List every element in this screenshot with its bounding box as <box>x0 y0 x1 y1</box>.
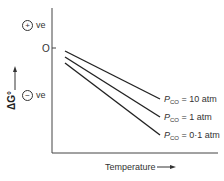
plus-circle-icon: + <box>22 20 33 31</box>
legend-value: = 1 atm <box>182 112 212 122</box>
negative-annotation: −ve <box>22 90 46 101</box>
x-axis-label: Temperature <box>105 163 156 172</box>
legend-10atm: PCO = 10 atm <box>164 95 217 105</box>
series-line-1atm <box>65 57 160 117</box>
positive-annotation: +ve <box>22 20 46 31</box>
legend-sub: CO <box>170 117 179 123</box>
legend-value: = 0·1 atm <box>182 130 220 140</box>
zero-label: O <box>42 44 50 54</box>
legend-sub: CO <box>170 135 179 141</box>
negative-label: ve <box>36 90 46 100</box>
legend-sub: CO <box>170 99 179 105</box>
minus-circle-icon: − <box>22 90 33 101</box>
y-axis-label: ΔG° <box>6 91 17 110</box>
series-line-10atm <box>65 51 160 99</box>
positive-label: ve <box>36 20 46 30</box>
series-line-0-1atm <box>65 63 160 135</box>
legend-value: = 10 atm <box>182 94 217 104</box>
xlabel-arrow-head-icon <box>170 165 176 169</box>
legend-0-1atm: PCO = 0·1 atm <box>164 131 220 141</box>
ylabel-arrow-head-icon <box>13 66 17 72</box>
legend-1atm: PCO = 1 atm <box>164 113 212 123</box>
